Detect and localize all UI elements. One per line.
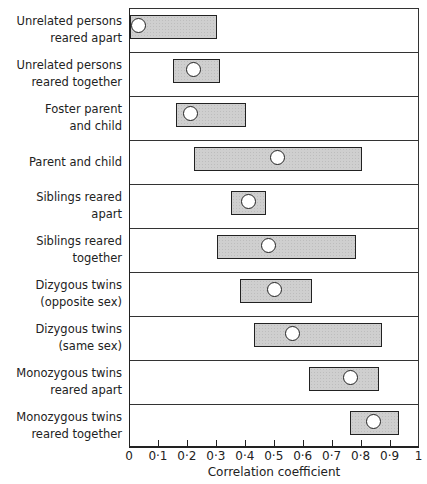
x-tick-label: 1: [415, 449, 423, 463]
x-tick-label: 0·5: [264, 449, 283, 463]
x-tick-label: 0·9: [380, 449, 399, 463]
x-tick-label: 0·2: [177, 449, 196, 463]
chart-row: [130, 273, 418, 317]
chart-row: [130, 141, 418, 185]
category-label: Dizygous twins (opposite sex): [0, 272, 122, 316]
category-label: Siblings reared together: [0, 228, 122, 272]
median-marker: [366, 414, 381, 429]
x-tick-label: 0·3: [206, 449, 225, 463]
category-label: Monozygous twins reared apart: [0, 360, 122, 404]
x-tick-label: 0·7: [322, 449, 341, 463]
chart-row: [130, 361, 418, 405]
category-label: Dizygous twins (same sex): [0, 316, 122, 360]
chart-row: [130, 9, 418, 53]
chart-row: [130, 53, 418, 97]
median-marker: [343, 370, 358, 385]
category-label: Foster parent and child: [0, 96, 122, 140]
category-label: Unrelated persons reared apart: [0, 8, 122, 52]
x-tick-label: 0: [125, 449, 133, 463]
x-tick-label: 0·4: [235, 449, 254, 463]
x-tick-label: 0·6: [293, 449, 312, 463]
category-label: Siblings reared apart: [0, 184, 122, 228]
category-label: Unrelated persons reared together: [0, 52, 122, 96]
chart-row: [130, 229, 418, 273]
x-tick-label: 0·8: [351, 449, 370, 463]
x-tick-label: 0·1: [148, 449, 167, 463]
median-marker: [285, 326, 300, 341]
plot-area: [129, 8, 419, 446]
x-axis-line: [129, 446, 419, 448]
chart-row: [130, 97, 418, 141]
chart-row: [130, 317, 418, 361]
range-bar: [217, 235, 356, 259]
category-label: Parent and child: [0, 140, 122, 184]
chart-row: [130, 185, 418, 229]
x-axis-title: Correlation coefficient: [129, 465, 419, 479]
range-bar: [254, 323, 381, 347]
category-label: Monozygous twins reared together: [0, 404, 122, 448]
